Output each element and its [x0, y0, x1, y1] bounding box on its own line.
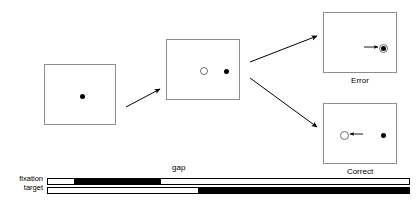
arrow-gap-to-correct: [250, 78, 317, 127]
arrows-layer: [0, 0, 420, 205]
connector-arrows: [126, 36, 317, 127]
arrow-gap-to-error: [250, 36, 317, 62]
arrow-fixation-to-gap: [126, 89, 160, 107]
figure-canvas: ErrorCorrect fixationtargetgap: [0, 0, 420, 205]
panel-arrows: [350, 47, 378, 134]
